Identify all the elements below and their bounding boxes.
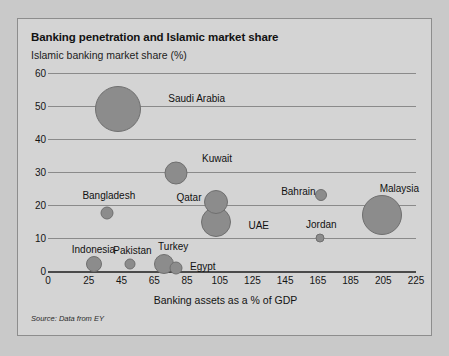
- x-axis-tick-label: 225: [408, 275, 425, 286]
- x-axis-tick-label: 165: [310, 275, 327, 286]
- bubble-label-bangladesh: Bangladesh: [82, 190, 135, 201]
- bubble-label-qatar: Qatar: [176, 192, 201, 203]
- x-axis-tick-label: 45: [116, 275, 127, 286]
- bubble-bangladesh[interactable]: [100, 207, 113, 220]
- gridline: [48, 172, 416, 173]
- x-axis-tick-label: 125: [244, 275, 261, 286]
- y-axis-tick-label: 40: [35, 134, 46, 145]
- gridline: [48, 139, 416, 140]
- y-axis-tick-label: 60: [35, 68, 46, 79]
- x-axis-tick-label: 185: [342, 275, 359, 286]
- bubble-jordan[interactable]: [315, 234, 324, 243]
- y-axis-tick-label: 50: [35, 101, 46, 112]
- y-axis-tick-label: 30: [35, 167, 46, 178]
- bubble-qatar[interactable]: [204, 190, 228, 214]
- x-axis-tick-label: 85: [181, 275, 192, 286]
- x-axis-tick-label: 205: [375, 275, 392, 286]
- chart-panel: Banking penetration and Islamic market s…: [17, 18, 432, 336]
- bubble-label-saudi-arabia: Saudi Arabia: [168, 93, 225, 104]
- bubble-saudi-arabia[interactable]: [95, 86, 141, 132]
- x-axis-tick-label: 25: [83, 275, 94, 286]
- bubble-pakistan[interactable]: [124, 259, 135, 270]
- bubble-label-jordan: Jordan: [306, 219, 337, 230]
- bubble-malaysia[interactable]: [362, 195, 402, 235]
- x-axis-baseline: [48, 272, 416, 273]
- bubble-egypt[interactable]: [169, 261, 182, 274]
- bubble-bahrain[interactable]: [315, 189, 327, 201]
- x-axis-tick-label: 0: [45, 275, 51, 286]
- screenshot-canvas: Banking penetration and Islamic market s…: [0, 0, 449, 356]
- bubble-label-malaysia: Malaysia: [380, 183, 419, 194]
- bubble-kuwait[interactable]: [164, 161, 187, 184]
- bubble-label-kuwait: Kuwait: [202, 153, 232, 164]
- y-axis-tick-label: 10: [35, 233, 46, 244]
- x-axis-tick-label: 65: [149, 275, 160, 286]
- x-axis-tick-label: 145: [277, 275, 294, 286]
- bubble-label-indonesia: Indonesia: [72, 244, 115, 255]
- source-note: Source: Data from EY: [31, 314, 104, 323]
- gridline: [48, 238, 416, 239]
- bubble-label-egypt: Egypt: [190, 261, 216, 272]
- bubble-label-turkey: Turkey: [158, 241, 188, 252]
- gridline: [48, 205, 416, 206]
- bubble-chart-plot: 0102030405060025456585105125145165185205…: [18, 19, 433, 337]
- x-axis-tick-label: 105: [211, 275, 228, 286]
- bubble-label-uae: UAE: [248, 220, 269, 231]
- gridline: [48, 73, 416, 74]
- bubble-label-pakistan: Pakistan: [113, 245, 151, 256]
- y-axis-tick-label: 20: [35, 200, 46, 211]
- bubble-label-bahrain: Bahrain: [281, 186, 315, 197]
- x-axis-title: Banking assets as a % of GDP: [18, 294, 433, 306]
- bubble-indonesia[interactable]: [86, 256, 102, 272]
